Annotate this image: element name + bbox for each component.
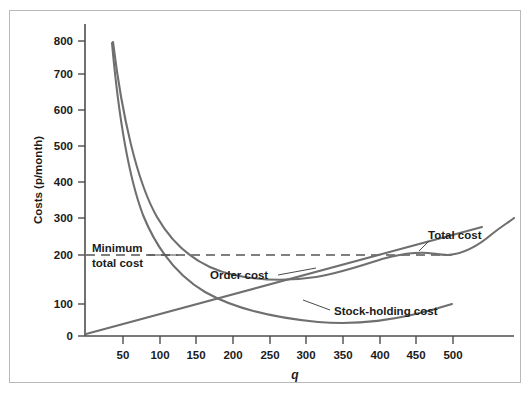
stock-holding-cost-leader: [303, 300, 330, 310]
y-tick-label-300: 300: [54, 212, 73, 224]
order-cost-label: Order cost: [210, 269, 268, 281]
x-tick-label-350: 350: [333, 349, 352, 361]
x-tick-label-400: 400: [370, 349, 389, 361]
total-cost-label: Total cost: [428, 229, 482, 241]
y-tick-label-800: 800: [54, 35, 73, 47]
y-tick-label-600: 600: [54, 104, 73, 116]
chart-figure: 0 100 200 300 400 500 600 700 800 50 100: [0, 0, 531, 396]
x-tick-label-250: 250: [260, 349, 279, 361]
x-tick-label-100: 100: [150, 349, 169, 361]
y-tick-marks: [78, 41, 85, 336]
y-axis-title: Costs (p/month): [32, 136, 44, 224]
x-tick-label-50: 50: [117, 349, 130, 361]
x-tick-label-500: 500: [443, 349, 462, 361]
minimum-total-cost-label-line1: Minimum: [92, 242, 142, 254]
figure-footer-band: [0, 386, 531, 396]
y-tick-label-500: 500: [54, 140, 73, 152]
stock-holding-cost-label: Stock-holding cost: [334, 305, 438, 317]
axis-group: [85, 24, 514, 336]
y-tick-labels: 0 100 200 300 400 500 600 700 800: [54, 35, 73, 342]
x-axis-title: q: [291, 368, 299, 382]
y-tick-label-700: 700: [54, 68, 73, 80]
total-cost-curve: [113, 42, 514, 280]
x-tick-label-200: 200: [223, 349, 242, 361]
x-tick-label-150: 150: [186, 349, 205, 361]
minimum-total-cost-label-line2: total cost: [92, 257, 143, 269]
chart-svg: 0 100 200 300 400 500 600 700 800 50 100: [0, 0, 531, 396]
y-tick-label-400: 400: [54, 176, 73, 188]
x-tick-label-300: 300: [296, 349, 315, 361]
y-tick-label-0: 0: [67, 330, 73, 342]
x-tick-marks: [123, 336, 453, 344]
y-tick-label-100: 100: [54, 298, 73, 310]
y-tick-label-200: 200: [54, 249, 73, 261]
x-tick-label-450: 450: [406, 349, 425, 361]
x-tick-labels: 50 100 150 200 250 300 350 400 450 500: [117, 349, 463, 361]
